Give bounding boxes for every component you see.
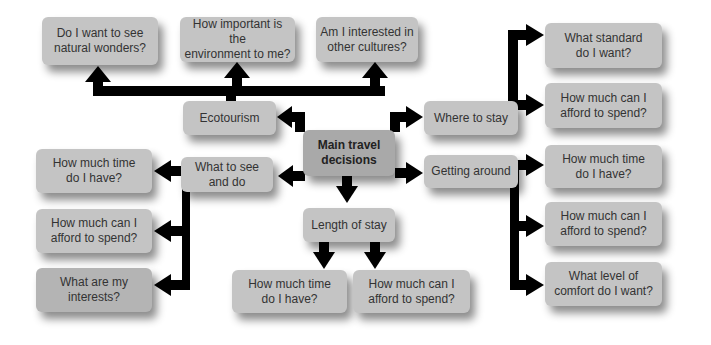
arrow-right-afford-stay — [526, 94, 544, 116]
category-what-to-see-and-do: What to see and do — [181, 157, 273, 192]
arrow-up-natural-wonders — [85, 66, 111, 82]
category-getting-around: Getting around — [424, 155, 518, 188]
category-length-of-stay: Length of stay — [303, 208, 395, 242]
ecotourism-stem — [226, 86, 236, 102]
question-stay-afford: How much can I afford to spend? — [545, 83, 662, 128]
arrow-left-see-and-do — [278, 165, 293, 187]
arrow-right-where-to-stay — [406, 106, 423, 128]
question-standard: What standard do I want? — [545, 23, 662, 68]
question-natural-wonders: Do I want to see natural wonders? — [42, 17, 158, 65]
category-ecotourism: Ecotourism — [183, 101, 276, 135]
question-see-afford: How much can I afford to spend? — [36, 209, 152, 253]
arrow-down-length-of-stay — [336, 186, 358, 203]
arrow-left-ecotourism — [277, 106, 292, 128]
question-cultures: Am I interested in other cultures? — [316, 17, 418, 62]
question-environment: How important is the environment to me? — [180, 17, 295, 62]
arrow-right-getting-around — [406, 162, 423, 184]
arrow-left-interests — [154, 274, 171, 296]
arrow-right-comfort — [526, 274, 544, 296]
arrow-right-time-around — [526, 154, 544, 176]
arrow-down-afford-length — [364, 252, 386, 269]
question-interests: What are my interests? — [36, 268, 152, 312]
arrow-right-standard — [526, 24, 544, 46]
arrow-down-time-length — [313, 252, 335, 269]
arrow-left-time-see — [154, 160, 171, 182]
arrow-left-afford-see — [154, 220, 171, 242]
question-see-time: How much time do I have? — [36, 149, 152, 193]
question-length-time: How much time do I have? — [232, 270, 347, 313]
main-travel-decisions: Main travel decisions — [303, 130, 395, 176]
arrow-up-environment — [224, 62, 250, 78]
question-comfort: What level of comfort do I want? — [545, 262, 662, 306]
category-where-to-stay: Where to stay — [424, 101, 518, 135]
arrow-up-cultures — [362, 62, 388, 78]
question-around-afford: How much can I afford to spend? — [545, 202, 662, 246]
question-length-afford: How much can I afford to spend? — [353, 270, 470, 313]
question-around-time: How much time do I have? — [545, 145, 662, 188]
arrow-right-afford-around — [526, 215, 544, 237]
